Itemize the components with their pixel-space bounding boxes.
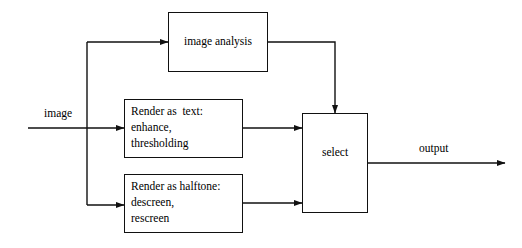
node-render-as-halftone-line-2: descreen, — [131, 196, 174, 210]
node-render-as-text-line-3: thresholding — [131, 137, 189, 151]
edge-label-output: output — [419, 142, 448, 155]
node-image-analysis-label: image analysis — [169, 35, 267, 49]
edge-label-image: image — [44, 107, 72, 120]
node-image-analysis[interactable]: image analysis — [168, 12, 268, 72]
node-render-as-halftone-line-1: Render as halftone: — [131, 180, 220, 194]
node-render-as-halftone[interactable]: Render as halftone: descreen, rescreen — [124, 174, 243, 233]
diagram-canvas: image analysis Render as text: enhance, … — [0, 0, 522, 248]
node-render-as-text-line-2: enhance, — [131, 121, 172, 135]
node-render-as-text-line-1: Render as text: — [131, 105, 203, 119]
node-render-as-text[interactable]: Render as text: enhance, thresholding — [124, 99, 243, 158]
node-select-label: select — [303, 146, 367, 160]
edge-analysis-to-select — [268, 42, 335, 113]
node-select[interactable]: select — [302, 113, 368, 213]
node-render-as-halftone-line-3: rescreen — [131, 212, 169, 226]
